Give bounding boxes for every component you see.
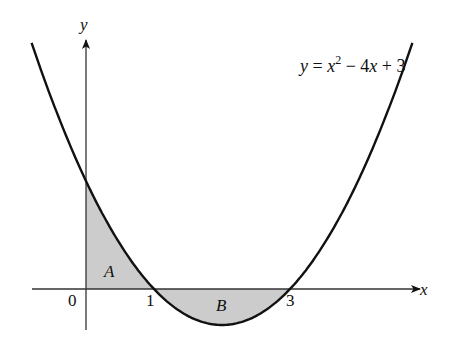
parabola-diagram: y x 0 1 3 A B y = x2 − 4x + 3 xyxy=(0,0,452,344)
equation-label: y = x2 − 4x + 3 xyxy=(298,53,405,76)
y-axis-label: y xyxy=(78,15,88,34)
tick-label-3: 3 xyxy=(286,291,295,310)
region-b-label: B xyxy=(216,296,227,315)
region-a-shading xyxy=(86,181,154,289)
tick-label-1: 1 xyxy=(146,291,155,310)
figure: y x 0 1 3 A B y = x2 − 4x + 3 xyxy=(0,0,452,344)
x-axis-label: x xyxy=(419,280,428,299)
region-a-label: A xyxy=(103,262,115,281)
tick-label-0: 0 xyxy=(68,291,77,310)
